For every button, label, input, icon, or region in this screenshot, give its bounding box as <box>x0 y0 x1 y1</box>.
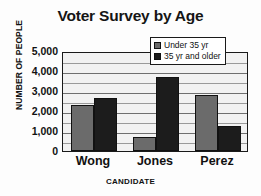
legend-swatch-icon <box>154 42 161 49</box>
plot-area <box>62 52 248 152</box>
legend-label: 35 yr and older <box>164 51 221 62</box>
y-tick-label: 0 <box>0 145 58 157</box>
y-tick-label: 3,000 <box>0 85 58 97</box>
legend-swatch-icon <box>154 53 161 60</box>
legend-label: Under 35 yr <box>164 40 208 51</box>
y-tick-label: 4,000 <box>0 65 58 77</box>
chart-figure: Voter Survey by Age NUMBER OF PEOPLE 01,… <box>0 0 261 196</box>
bar-jones-older <box>156 77 179 151</box>
x-axis-title: CANDIDATE <box>0 177 261 186</box>
bar-perez-under35 <box>195 95 218 151</box>
chart-title: Voter Survey by Age <box>0 7 261 25</box>
bar-perez-older <box>218 126 241 151</box>
legend-item: 35 yr and older <box>154 51 221 62</box>
bar-wong-older <box>94 98 117 151</box>
y-tick-label: 1,000 <box>0 125 58 137</box>
bars-layer <box>63 53 247 151</box>
legend-item: Under 35 yr <box>154 40 221 51</box>
y-tick-label: 5,000 <box>0 45 58 57</box>
bar-jones-under35 <box>133 137 156 151</box>
x-tick-label-perez: Perez <box>186 154 248 168</box>
y-tick-label: 2,000 <box>0 105 58 117</box>
x-tick-label-wong: Wong <box>62 154 124 168</box>
bar-wong-under35 <box>71 105 94 151</box>
x-tick-label-jones: Jones <box>124 154 186 168</box>
chart-legend: Under 35 yr35 yr and older <box>150 37 226 65</box>
